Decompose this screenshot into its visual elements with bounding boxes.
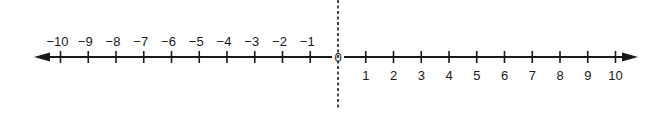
tick-label-positive: 4 (445, 68, 452, 83)
tick-label-negative: −9 (78, 34, 93, 49)
tick-label-positive: 3 (418, 68, 425, 83)
origin-label: 0 (334, 50, 341, 65)
tick-label-negative: −4 (217, 34, 232, 49)
tick-label-negative: −6 (161, 34, 176, 49)
tick-label-negative: −5 (189, 34, 204, 49)
right-arrow-icon (622, 53, 638, 62)
positive-labels: 12345678910 (362, 68, 623, 83)
tick-label-positive: 10 (608, 68, 622, 83)
tick-label-positive: 5 (473, 68, 480, 83)
tick-label-negative: −10 (46, 34, 68, 49)
negative-labels: −10−9−8−7−6−5−4−3−2−1 (46, 34, 314, 49)
tick-label-negative: −2 (272, 34, 287, 49)
left-arrow-icon (34, 53, 50, 62)
tick-label-positive: 6 (501, 68, 508, 83)
tick-label-positive: 8 (556, 68, 563, 83)
tick-label-negative: −1 (300, 34, 315, 49)
tick-label-positive: 7 (529, 68, 536, 83)
tick-label-negative: −3 (244, 34, 259, 49)
tick-label-negative: −8 (106, 34, 121, 49)
number-line-diagram: −10−9−8−7−6−5−4−3−2−1 12345678910 0 (0, 0, 672, 117)
tick-label-negative: −7 (133, 34, 148, 49)
tick-label-positive: 1 (362, 68, 369, 83)
tick-label-positive: 9 (584, 68, 591, 83)
tick-label-positive: 2 (390, 68, 397, 83)
